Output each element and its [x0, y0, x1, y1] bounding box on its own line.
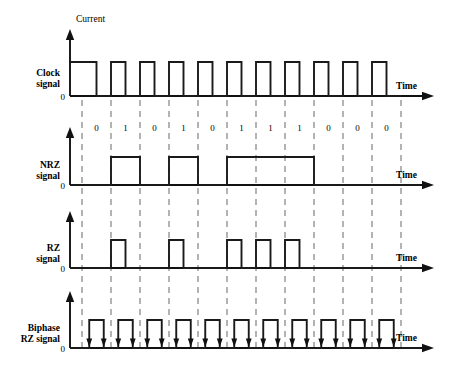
time-axis-label: Time: [396, 253, 417, 263]
clock-waveform: [70, 62, 401, 96]
row-label-nrz-line1: NRZ: [40, 160, 60, 170]
biphase-rising-edge-arrow: [144, 339, 150, 348]
bit-label: 1: [181, 123, 186, 133]
bit-label: 0: [94, 123, 99, 133]
current-axis-arrowhead: [66, 127, 74, 138]
biphase-rz-waveform: [70, 320, 420, 348]
current-axis-arrowhead: [66, 211, 74, 222]
row-label-biphase-rz-line1: Biphase: [28, 323, 60, 333]
biphase-rising-edge-arrow: [289, 339, 295, 348]
row-label-rz-line1: RZ: [47, 243, 60, 253]
biphase-rising-edge-arrow: [260, 339, 266, 348]
zero-label: 0: [61, 264, 66, 274]
axis-group-1: [66, 127, 434, 189]
biphase-falling-edge-arrow: [130, 339, 136, 348]
biphase-falling-edge-arrow: [217, 339, 223, 348]
time-axis-label: Time: [396, 81, 417, 91]
bit-label: 1: [268, 123, 273, 133]
gridlines-layer: [82, 100, 401, 350]
biphase-rising-edge-arrow: [231, 339, 237, 348]
time-axis-label: Time: [396, 333, 417, 343]
timing-diagram-svg: 0Time0Time0Time0TimeCurrentClocksignalNR…: [0, 0, 459, 375]
bit-label: 0: [326, 123, 331, 133]
bit-label: 1: [239, 123, 244, 133]
row-label-clock-line1: Clock: [36, 68, 60, 78]
axes-layer: [66, 29, 434, 352]
biphase-falling-edge-arrow: [275, 339, 281, 348]
time-axis-label: Time: [396, 170, 417, 180]
biphase-rising-edge-arrow: [173, 339, 179, 348]
current-axis-arrowhead: [66, 29, 74, 40]
biphase-rising-edge-arrow: [202, 339, 208, 348]
time-axis-arrowhead: [422, 264, 434, 272]
time-axis-arrowhead: [422, 181, 434, 189]
bit-label: 0: [152, 123, 157, 133]
biphase-falling-edge-arrow: [246, 339, 252, 348]
time-axis-arrowhead: [422, 92, 434, 100]
biphase-falling-edge-arrow: [101, 339, 107, 348]
zero-label: 0: [61, 92, 66, 102]
biphase-rising-edge-arrow: [376, 339, 382, 348]
biphase-rising-edge-arrow: [115, 339, 121, 348]
biphase-falling-edge-arrow: [188, 339, 194, 348]
bit-label: 0: [210, 123, 215, 133]
row-label-biphase-rz-line2: RZ signal: [21, 334, 61, 344]
time-axis-arrowhead: [422, 344, 434, 352]
biphase-rising-edge-arrow: [86, 339, 92, 348]
row-label-clock-line2: signal: [36, 79, 60, 89]
current-axis-label: Current: [76, 14, 105, 24]
zero-label: 0: [61, 181, 66, 191]
row-label-rz-line2: signal: [36, 254, 60, 264]
biphase-rising-edge-arrow: [318, 339, 324, 348]
bit-label: 1: [123, 123, 128, 133]
biphase-rising-edge-arrow: [347, 339, 353, 348]
waveforms-layer: [70, 62, 420, 348]
nrz-waveform: [70, 157, 420, 185]
biphase-falling-edge-arrow: [362, 339, 368, 348]
bit-label: 0: [384, 123, 389, 133]
axis-group-0: [66, 29, 434, 100]
biphase-falling-edge-arrow: [333, 339, 339, 348]
biphase-falling-edge-arrow: [159, 339, 165, 348]
biphase-falling-edge-arrow: [304, 339, 310, 348]
rz-waveform: [70, 240, 420, 268]
row-label-nrz-line2: signal: [36, 171, 60, 181]
bit-label: 0: [355, 123, 360, 133]
current-axis-arrowhead: [66, 291, 74, 302]
bit-label: 1: [297, 123, 302, 133]
timing-diagram: 0Time0Time0Time0TimeCurrentClocksignalNR…: [0, 0, 459, 375]
axis-group-2: [66, 211, 434, 272]
zero-label: 0: [61, 344, 66, 354]
